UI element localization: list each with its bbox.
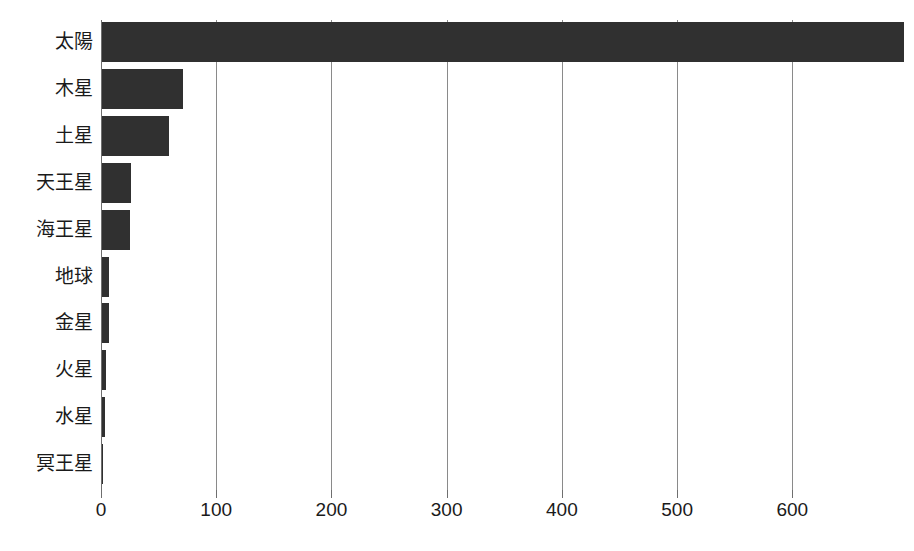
x-tick-label: 500: [661, 498, 693, 522]
tick-mark-400: [562, 490, 563, 498]
plot-area: [101, 20, 911, 490]
x-tick-label: 300: [431, 498, 463, 522]
y-category-label: 水星: [0, 407, 93, 427]
y-category-label: 地球: [0, 267, 93, 287]
bars: [101, 20, 911, 490]
bar: [102, 397, 105, 437]
tick-mark-200: [331, 490, 332, 498]
tick-mark-100: [216, 490, 217, 498]
y-category-label: 金星: [0, 313, 93, 333]
y-category-label: 太陽: [0, 32, 93, 52]
tick-mark-600: [792, 490, 793, 498]
bar: [102, 444, 103, 484]
x-tick-label: 400: [546, 498, 578, 522]
bar: [102, 210, 130, 250]
y-category-label: 木星: [0, 79, 93, 99]
bar: [102, 69, 183, 109]
clipped-title-text: [34, 0, 214, 4]
tick-mark-500: [677, 490, 678, 498]
bar: [102, 22, 904, 62]
tick-mark-300: [447, 490, 448, 498]
bar: [102, 350, 106, 390]
tick-mark-0: [101, 490, 102, 498]
x-tick-label: 200: [316, 498, 348, 522]
y-category-label: 天王星: [0, 173, 93, 193]
bar: [102, 163, 131, 203]
y-axis-category-labels: 太陽木星土星天王星海王星地球金星火星水星冥王星: [0, 20, 93, 490]
x-axis-tick-labels: 0100200300400500600: [0, 498, 914, 532]
bar-chart: 太陽木星土星天王星海王星地球金星火星水星冥王星 0100200300400500…: [0, 0, 914, 551]
y-category-label: 土星: [0, 126, 93, 146]
x-tick-label: 0: [96, 498, 107, 522]
bar: [102, 303, 109, 343]
y-category-label: 冥王星: [0, 454, 93, 474]
y-category-label: 火星: [0, 360, 93, 380]
x-tick-label: 600: [776, 498, 808, 522]
bar: [102, 257, 109, 297]
bar: [102, 116, 169, 156]
y-category-label: 海王星: [0, 220, 93, 240]
x-tick-label: 100: [200, 498, 232, 522]
